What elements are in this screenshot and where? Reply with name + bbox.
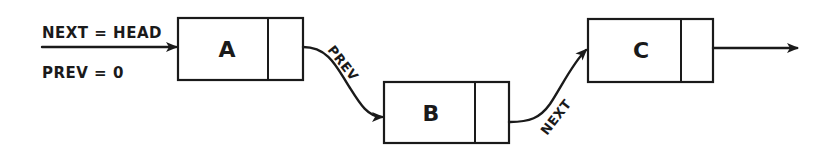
prev-equals-zero-label: PREV = 0 — [42, 64, 124, 82]
node-b-label: B — [423, 101, 440, 126]
node-c: C — [588, 19, 713, 82]
node-b: B — [384, 82, 509, 143]
node-c-box — [588, 19, 713, 82]
node-c-label: C — [633, 38, 649, 63]
node-a-box — [178, 18, 303, 80]
node-a: A — [178, 18, 303, 80]
next-equals-head-label: NEXT = HEAD — [42, 24, 162, 42]
linked-list-diagram: NEXT = HEAD PREV = 0 A PREV B NEXT C — [0, 0, 831, 154]
next-link-label: NEXT — [538, 97, 575, 138]
node-a-label: A — [218, 37, 235, 62]
next-link-arrow — [509, 50, 586, 122]
node-b-box — [384, 82, 509, 143]
